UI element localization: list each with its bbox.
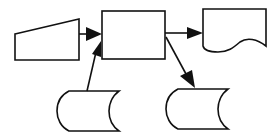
process-node — [102, 11, 165, 59]
arrow-stored-data-to-process — [87, 41, 101, 91]
arrow-process-to-stored-data-right — [166, 37, 195, 88]
arrow-manual-input-to-process — [79, 27, 102, 41]
document-node — [203, 9, 266, 52]
arrow-process-to-document — [165, 27, 203, 39]
manual-input-node — [15, 19, 79, 60]
flowchart-diagram — [0, 0, 279, 136]
stored-data-right-node — [166, 89, 228, 129]
stored-data-left-node — [57, 91, 119, 131]
